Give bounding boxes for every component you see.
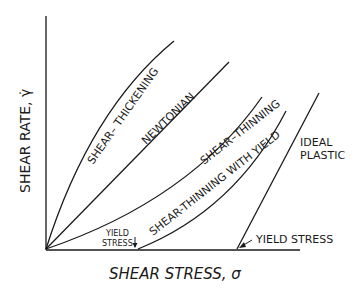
yield-stress-small-line2: STRESS [102, 239, 133, 248]
label-ideal-plastic-line2: PLASTIC [300, 149, 345, 162]
y-axis-title: SHEAR RATE, γ̇ [17, 89, 33, 193]
rheology-diagram: SHEAR– THICKENING NEWTONIAN SHEAR–THINNI… [0, 0, 360, 290]
label-ideal-plastic-line1: IDEAL [300, 136, 333, 149]
label-newtonian: NEWTONIAN [139, 90, 197, 147]
x-axis-title: SHEAR STRESS, σ [109, 265, 241, 283]
yield-arrowhead-small [133, 243, 138, 248]
yield-stress-right-label: YIELD STRESS [255, 233, 333, 246]
yield-stress-small-line1: YIELD [105, 229, 129, 238]
label-shear-thickening: SHEAR– THICKENING [85, 65, 161, 166]
